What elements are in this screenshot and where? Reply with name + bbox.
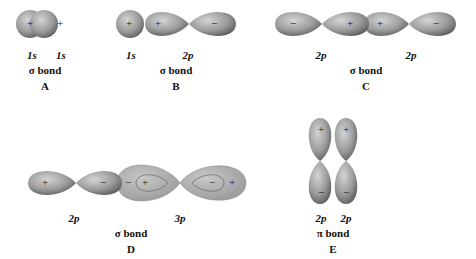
- diagram-letter: C: [362, 80, 370, 92]
- sign: +: [343, 123, 349, 135]
- orbital-label: 2p: [183, 49, 194, 61]
- s-orbital-2: [30, 10, 58, 38]
- orbital-label: 1s: [126, 49, 136, 61]
- diagram-letter: B: [172, 80, 179, 92]
- sign: +: [377, 17, 383, 29]
- sign: +: [27, 17, 33, 29]
- sign: +: [155, 17, 161, 29]
- sign: +: [318, 123, 324, 135]
- sign: +: [347, 17, 353, 29]
- sign: −: [209, 176, 215, 188]
- orbital-label: 3p: [175, 212, 186, 224]
- bond-label: π bond: [317, 227, 350, 239]
- sign: +: [126, 17, 132, 29]
- diagram-e: [309, 118, 358, 204]
- orbital-label: 2p: [341, 212, 352, 224]
- p-lobe: [322, 12, 369, 36]
- p-lobe-positive: [145, 12, 189, 36]
- sign: +: [57, 17, 63, 29]
- diagram-b: [116, 10, 236, 38]
- orbital-label: 2p: [316, 212, 327, 224]
- bond-label: σ bond: [115, 227, 148, 239]
- sign: −: [433, 17, 439, 29]
- diagram-letter: A: [41, 80, 49, 92]
- sign: +: [229, 176, 235, 188]
- sign: +: [142, 176, 148, 188]
- sign: −: [343, 186, 349, 198]
- diagram-letter: E: [329, 243, 336, 255]
- orbital-label: 2p: [406, 49, 417, 61]
- sign: +: [42, 176, 48, 188]
- orbital-label: 1s: [27, 49, 37, 61]
- diagram-c: [275, 12, 456, 36]
- sign: −: [100, 176, 106, 188]
- sign: −: [318, 186, 324, 198]
- bond-label: σ bond: [350, 64, 383, 76]
- p-lobe: [364, 12, 409, 36]
- diagram-a: [16, 10, 58, 38]
- p-lobe: [28, 171, 76, 195]
- bond-label: σ bond: [160, 64, 193, 76]
- orbital-label: 2p: [69, 212, 80, 224]
- orbital-label: 2p: [316, 49, 327, 61]
- p-lobe: [275, 12, 322, 36]
- sign: −: [125, 176, 131, 188]
- sign: −: [290, 17, 296, 29]
- diagram-letter: D: [127, 243, 135, 255]
- orbital-label: 1s: [56, 49, 66, 61]
- sign: −: [211, 17, 217, 29]
- bond-label: σ bond: [29, 64, 62, 76]
